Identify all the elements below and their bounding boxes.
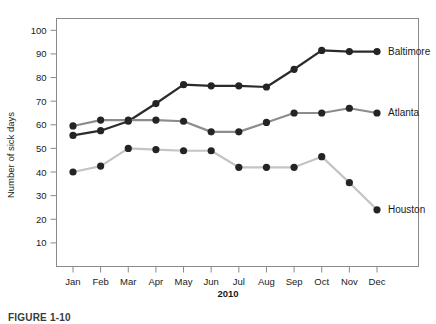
data-point <box>235 128 242 135</box>
x-tick-label-nov: Nov <box>341 276 358 287</box>
plot-frame <box>57 19 419 267</box>
data-point <box>263 83 270 90</box>
data-point <box>97 127 104 134</box>
data-point <box>208 82 215 89</box>
y-tick-label-30: 30 <box>36 190 47 201</box>
x-tick-label-aug: Aug <box>258 276 275 287</box>
series-label-houston: Houston <box>388 204 425 215</box>
data-point <box>318 153 325 160</box>
line-chart: 102030405060708090100 JanFebMarAprMayJun… <box>0 0 436 308</box>
x-axis-tick-labels: JanFebMarAprMayJunJulAugSepOctNovDec <box>65 276 385 287</box>
data-point <box>97 163 104 170</box>
y-tick-label-90: 90 <box>36 48 47 59</box>
series-line-atlanta <box>73 108 377 132</box>
series-line-baltimore <box>73 50 377 135</box>
y-tick-label-50: 50 <box>36 143 47 154</box>
data-point <box>263 164 270 171</box>
data-point <box>346 105 353 112</box>
x-tick-label-dec: Dec <box>369 276 386 287</box>
x-tick-label-jul: Jul <box>233 276 245 287</box>
x-axis-ticks <box>73 267 377 273</box>
x-axis-title: 2010 <box>217 288 238 299</box>
data-point <box>318 109 325 116</box>
data-point <box>373 206 380 213</box>
data-point <box>69 122 76 129</box>
y-tick-label-20: 20 <box>36 214 47 225</box>
data-point <box>346 179 353 186</box>
x-tick-label-jan: Jan <box>65 276 80 287</box>
data-point <box>97 116 104 123</box>
x-tick-label-apr: Apr <box>149 276 164 287</box>
data-series-group <box>69 47 380 214</box>
y-axis-title: Number of sick days <box>5 112 16 198</box>
x-tick-label-jun: Jun <box>204 276 219 287</box>
data-point <box>290 164 297 171</box>
y-tick-label-10: 10 <box>36 237 47 248</box>
y-tick-label-80: 80 <box>36 72 47 83</box>
x-tick-label-mar: Mar <box>120 276 136 287</box>
data-point <box>180 147 187 154</box>
series-atlanta <box>69 105 380 136</box>
x-tick-label-feb: Feb <box>92 276 108 287</box>
data-point <box>235 82 242 89</box>
data-point <box>69 132 76 139</box>
data-point <box>208 147 215 154</box>
y-tick-label-40: 40 <box>36 167 47 178</box>
data-point <box>290 109 297 116</box>
data-point <box>152 100 159 107</box>
x-tick-label-sep: Sep <box>286 276 303 287</box>
y-tick-label-60: 60 <box>36 119 47 130</box>
series-baltimore <box>69 47 380 139</box>
data-point <box>69 168 76 175</box>
data-point <box>346 48 353 55</box>
data-point <box>125 116 132 123</box>
figure-caption: FIGURE 1-10 <box>8 312 71 323</box>
data-point <box>235 164 242 171</box>
series-label-atlanta: Atlanta <box>388 107 420 118</box>
data-point <box>152 116 159 123</box>
series-line-houston <box>73 148 377 209</box>
data-point <box>180 81 187 88</box>
data-point <box>318 47 325 54</box>
y-axis-tick-labels: 102030405060708090100 <box>31 25 47 249</box>
data-point <box>208 128 215 135</box>
data-point <box>373 109 380 116</box>
y-tick-label-100: 100 <box>31 25 47 36</box>
data-point <box>290 66 297 73</box>
data-point <box>125 145 132 152</box>
series-houston <box>69 145 380 214</box>
data-point <box>373 48 380 55</box>
x-tick-label-may: May <box>175 276 193 287</box>
figure-container: 102030405060708090100 JanFebMarAprMayJun… <box>0 0 436 324</box>
y-tick-label-70: 70 <box>36 96 47 107</box>
series-label-baltimore: Baltimore <box>388 46 431 57</box>
data-point <box>263 119 270 126</box>
series-name-labels: BaltimoreAtlantaHouston <box>388 46 431 215</box>
data-point <box>180 118 187 125</box>
x-tick-label-oct: Oct <box>314 276 329 287</box>
y-axis-ticks <box>51 30 57 243</box>
data-point <box>152 146 159 153</box>
